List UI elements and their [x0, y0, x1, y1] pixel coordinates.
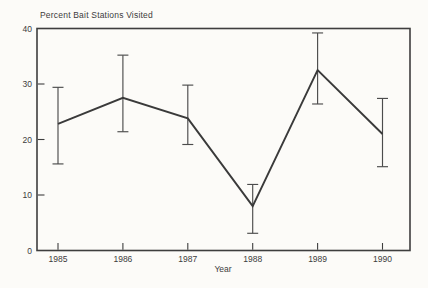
x-axis-tick-label: 1988: [243, 254, 262, 264]
y-axis-tick-label: 10: [23, 190, 33, 200]
figure: Percent Bait Stations Visited 0102030401…: [0, 0, 428, 288]
plot-area: 010203040198519861987198819891990: [23, 24, 410, 264]
y-axis-tick-label: 20: [23, 135, 33, 145]
x-axis-tick-label: 1990: [373, 254, 392, 264]
x-axis-label: Year: [214, 264, 231, 274]
data-line: [58, 70, 383, 206]
line-chart: Percent Bait Stations Visited 0102030401…: [0, 0, 428, 288]
y-axis-tick-label: 0: [27, 246, 32, 256]
plot-frame: [37, 29, 410, 251]
y-axis-tick-label: 30: [23, 79, 33, 89]
x-axis-tick-label: 1989: [308, 254, 327, 264]
x-axis-tick-label: 1987: [178, 254, 197, 264]
x-axis-tick-label: 1985: [49, 254, 68, 264]
x-axis-tick-label: 1986: [113, 254, 132, 264]
chart-title: Percent Bait Stations Visited: [40, 10, 153, 20]
y-axis-tick-label: 40: [23, 24, 33, 34]
